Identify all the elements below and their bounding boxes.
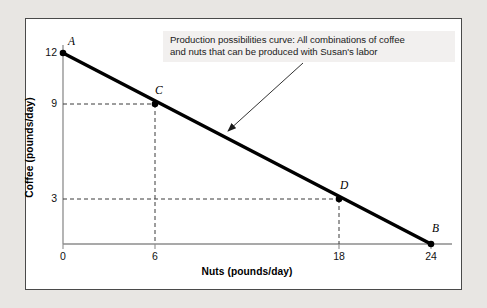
data-point-d (336, 196, 343, 203)
y-tick-label-12: 12 (31, 46, 57, 58)
data-point-a (60, 50, 67, 57)
point-label-b: B (432, 222, 439, 234)
data-point-c (152, 101, 159, 108)
x-axis-title: Nuts (pounds/day) (63, 266, 431, 277)
annotation-line-2: and nuts that can be produced with Susan… (170, 46, 449, 58)
point-label-a: A (68, 35, 75, 47)
point-label-d: D (340, 179, 348, 191)
annotation-line-1: Production possibilities curve: All comb… (170, 34, 449, 46)
x-tick-label-6: 6 (140, 250, 170, 262)
y-tick-label-9: 9 (31, 97, 57, 109)
y-tick-label-3: 3 (31, 192, 57, 204)
production-possibilities-curve (63, 53, 431, 244)
y-axis-title: Coffee (pounds/day) (24, 68, 35, 228)
figure-root: Production possibilities curve: All comb… (0, 0, 487, 308)
x-tick-label-24: 24 (416, 250, 446, 262)
x-tick-label-18: 18 (324, 250, 354, 262)
data-point-b (428, 241, 435, 248)
annotation-callout: Production possibilities curve: All comb… (163, 31, 455, 62)
annotation-arrow (228, 63, 303, 131)
point-label-c: C (155, 84, 163, 96)
x-tick-label-0: 0 (48, 250, 78, 262)
